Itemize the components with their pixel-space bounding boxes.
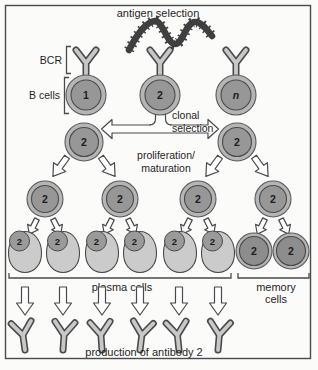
cell-number: 2 (17, 236, 22, 247)
selected-cell: 2 (218, 123, 256, 161)
daughter-cell: 2 (180, 181, 216, 217)
cell-number: 2 (55, 236, 60, 247)
memory-cells-label-line2: cells (265, 293, 288, 305)
cell-number: 2 (132, 236, 137, 247)
bcr-y-icon (226, 50, 246, 77)
diagonal-arrow-icon (47, 153, 73, 181)
diagram-canvas: antigen selection 1 2 (0, 0, 318, 370)
cell-number: 2 (157, 89, 163, 101)
cell-number: 2 (251, 245, 257, 257)
cell-number: 2 (195, 193, 201, 205)
cell-number: 2 (234, 136, 240, 148)
bcr-label: BCR (40, 54, 63, 66)
memory-cells-label-line1: memory (256, 281, 296, 293)
memory-cell: 2 (236, 233, 272, 269)
cell-number: 2 (210, 236, 215, 247)
cell-number: 2 (270, 193, 276, 205)
plasma-cells-bracket (9, 273, 231, 278)
b-cell-n: n (216, 75, 256, 115)
daughter-cell: 2 (27, 181, 63, 217)
bcr-y-icon (150, 50, 170, 77)
cell-number: 2 (42, 193, 48, 205)
b-cells-label: B cells (29, 89, 60, 101)
proliferation-label-line2: maturation (141, 162, 191, 174)
selected-cell: 2 (65, 123, 103, 161)
diagonal-arrow-icon (95, 153, 121, 181)
plasma-cell: 2 (8, 231, 41, 273)
antibody-icon (11, 321, 35, 352)
clonal-selection-diagram: antigen selection 1 2 (0, 0, 318, 370)
antigen-icon (129, 21, 212, 50)
cell-number: 2 (94, 236, 99, 247)
antibody-icon (53, 321, 75, 350)
production-label: production of antibody 2 (85, 346, 202, 358)
proliferation-label-line1: proliferation/ (137, 149, 195, 161)
cell-number: n (233, 89, 239, 101)
cell-number: 2 (81, 136, 87, 148)
diagonal-arrow-icon (248, 153, 274, 181)
bcr-y-icon (76, 50, 96, 77)
antibody-icon (208, 321, 230, 351)
down-arrow-icon (55, 287, 72, 315)
daughter-cell: 2 (102, 181, 138, 217)
down-arrow-icon (210, 287, 227, 315)
memory-cells-bracket (238, 273, 309, 278)
cell-number: 1 (83, 89, 89, 101)
memory-cell: 2 (273, 233, 309, 269)
cell-number: 2 (288, 245, 294, 257)
down-arrow-icon (17, 287, 34, 315)
diagonal-arrow-icon (200, 153, 226, 181)
down-arrow-icon (171, 287, 188, 315)
plasma-cell: 2 (46, 231, 79, 273)
plasma-cell: 2 (201, 231, 234, 273)
plasma-cell: 2 (163, 231, 196, 273)
clonal-selection-label-line1: clonal (172, 109, 199, 121)
bcr-bracket (67, 47, 72, 74)
cell-number: 2 (117, 193, 123, 205)
clonal-selection-label-line2: selection (172, 122, 214, 134)
daughter-cell: 2 (255, 181, 291, 217)
plasma-cell: 2 (123, 231, 156, 273)
cell-number: 2 (172, 236, 177, 247)
b-cell-1: 1 (66, 75, 106, 115)
plasma-cell: 2 (85, 231, 118, 273)
